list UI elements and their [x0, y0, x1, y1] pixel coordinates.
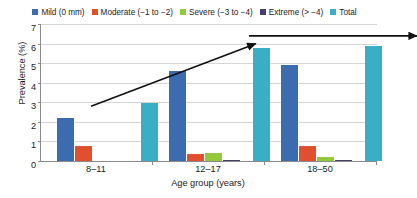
x-axis-tick-mark: [264, 161, 265, 165]
bar: [205, 153, 222, 161]
legend-swatch-icon: [330, 9, 336, 15]
y-axis-tick-label: 1: [31, 141, 36, 150]
x-axis-tick-label: 12–17: [195, 164, 221, 174]
bar: [223, 160, 240, 161]
bar: [365, 46, 382, 161]
legend-swatch-icon: [32, 9, 38, 15]
bar-group: [153, 24, 265, 161]
legend-label: Severe (−3 to −4): [189, 8, 253, 17]
x-axis-tick-label: 18–50: [307, 164, 333, 174]
bar: [75, 146, 92, 161]
chart-legend: Mild (0 mm)Moderate (−1 to −2)Severe (−3…: [0, 4, 389, 20]
bar-group: [41, 24, 153, 161]
legend-entry: Moderate (−1 to −2): [92, 8, 173, 17]
bar-group-bars: [153, 24, 281, 161]
plot-area: [40, 24, 377, 162]
bar-group: [265, 24, 377, 161]
legend-label: Extreme (> −4): [269, 8, 324, 17]
x-axis-tick-mark: [152, 161, 153, 165]
bar: [57, 118, 74, 161]
x-axis-tick-label: 8–11: [86, 164, 106, 174]
y-axis-tick-label: 2: [31, 121, 36, 130]
bar: [299, 146, 316, 161]
legend-swatch-icon: [180, 9, 186, 15]
legend-label: Moderate (−1 to −2): [101, 8, 173, 17]
plot-area-wrapper: Prevalence (%) 01234567 8–1112–1718–50 A…: [0, 20, 389, 198]
bar: [335, 160, 352, 161]
bar-group-bars: [265, 24, 393, 161]
y-axis-tick-label: 7: [31, 24, 36, 33]
legend-entry: Severe (−3 to −4): [180, 8, 253, 17]
y-axis-tick-label: 6: [31, 43, 36, 52]
bar: [317, 157, 334, 161]
legend-entry: Total: [330, 8, 356, 17]
bar: [281, 65, 298, 161]
y-axis-tick-label: 4: [31, 82, 36, 91]
legend-entry: Extreme (> −4): [260, 8, 324, 17]
x-axis-tick-mark: [376, 161, 377, 165]
x-axis-label: Age group (years): [40, 178, 376, 188]
legend-label: Mild (0 mm): [41, 8, 84, 17]
bar: [187, 154, 204, 161]
legend-swatch-icon: [260, 9, 266, 15]
legend-swatch-icon: [92, 9, 98, 15]
legend-label: Total: [339, 8, 356, 17]
bar: [169, 71, 186, 161]
y-axis-tick-label: 0: [31, 161, 36, 170]
bar-group-bars: [41, 24, 169, 161]
y-axis-tick-mark: [38, 161, 41, 162]
y-axis-tick-label: 3: [31, 102, 36, 111]
legend-entry: Mild (0 mm): [32, 8, 84, 17]
y-axis-tick-label: 5: [31, 63, 36, 72]
y-axis-tick-labels: 01234567: [22, 24, 38, 161]
